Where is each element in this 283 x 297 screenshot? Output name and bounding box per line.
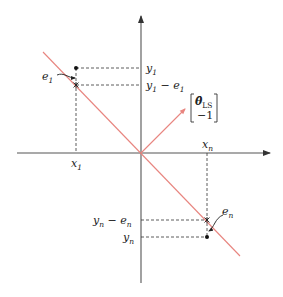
vector-label: θ̂LS −1 xyxy=(191,94,217,122)
data-point-1 xyxy=(74,66,78,70)
normal-vector-arrow xyxy=(141,109,185,153)
label-y1-minus-e1: y1 − e1 xyxy=(145,79,185,94)
label-y1: y1 xyxy=(145,62,157,77)
label-e1: e1 xyxy=(42,70,53,85)
diagram-canvas: y1 y1 − e1 e1 x1 xn yn − en yn en θ̂LS −… xyxy=(0,0,283,297)
label-x1: x1 xyxy=(71,157,82,172)
left-bracket xyxy=(191,94,194,122)
en-pointer-arrow xyxy=(209,215,223,231)
right-bracket xyxy=(214,94,217,122)
label-yn: yn xyxy=(122,231,134,246)
vector-top-entry: θ̂LS xyxy=(195,95,212,110)
label-yn-minus-en: yn − en xyxy=(92,214,132,229)
data-point-n xyxy=(205,235,209,239)
label-en: en xyxy=(222,205,234,220)
label-xn: xn xyxy=(202,138,213,153)
vector-bottom-entry: −1 xyxy=(197,109,213,122)
